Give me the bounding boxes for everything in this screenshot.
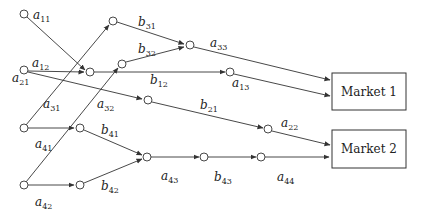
market-1-label: Market 1 xyxy=(341,85,397,99)
label-a13: a13 xyxy=(232,76,249,92)
market-2-box: Market 2 xyxy=(332,130,406,168)
market-1-box: Market 1 xyxy=(332,73,406,110)
label-b31: b31 xyxy=(138,15,156,31)
label-b43: b43 xyxy=(214,170,232,186)
node xyxy=(86,68,94,76)
edge-b42 xyxy=(84,159,142,183)
label-a22: a22 xyxy=(281,116,298,132)
node xyxy=(226,68,234,76)
node xyxy=(143,153,151,161)
node xyxy=(20,66,28,74)
label-b21: b21 xyxy=(200,98,218,114)
label-b42: b42 xyxy=(101,179,119,195)
label-a33: a33 xyxy=(210,36,227,52)
network-diagram: Market 1 Market 2 a11 a12 a21 a31 a32 a4… xyxy=(0,0,423,220)
node xyxy=(20,10,28,18)
node xyxy=(186,41,194,49)
label-b41: b41 xyxy=(101,123,119,139)
node xyxy=(118,60,126,68)
node xyxy=(264,125,272,133)
label-a44: a44 xyxy=(277,170,294,186)
label-a31: a31 xyxy=(43,97,60,113)
label-a11: a11 xyxy=(33,8,50,24)
node xyxy=(200,153,208,161)
edge-a33 xyxy=(194,47,330,80)
node xyxy=(76,124,84,132)
edge-a22 xyxy=(272,131,330,145)
market-2-label: Market 2 xyxy=(341,142,397,156)
label-a12: a12 xyxy=(32,56,49,72)
node xyxy=(109,17,117,25)
label-a32: a32 xyxy=(97,97,114,113)
edge-a12 xyxy=(28,71,84,72)
node xyxy=(144,96,152,104)
label-a41: a41 xyxy=(35,137,52,153)
node xyxy=(76,181,84,189)
node xyxy=(20,181,28,189)
label-b32: b32 xyxy=(138,42,156,58)
node xyxy=(20,124,28,132)
node xyxy=(257,153,265,161)
edge-a21 xyxy=(28,72,142,99)
label-a43: a43 xyxy=(161,169,178,185)
label-b12: b12 xyxy=(150,73,168,89)
label-a42: a42 xyxy=(35,195,52,211)
